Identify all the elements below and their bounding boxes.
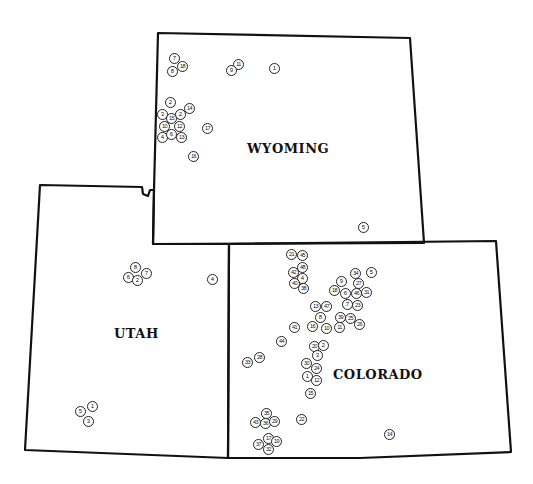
site-marker-colorado: 22 xyxy=(296,414,307,425)
site-marker-utah: 2 xyxy=(132,275,143,286)
site-marker-wyoming: 17 xyxy=(202,123,213,134)
site-marker-colorado: 31 xyxy=(361,287,372,298)
site-marker-colorado: 28 xyxy=(254,352,265,363)
wyoming-outline xyxy=(153,33,424,244)
utah-outline xyxy=(25,185,229,458)
site-marker-wyoming: 2 xyxy=(175,109,186,120)
site-marker-colorado: 24 xyxy=(311,363,322,374)
site-marker-colorado: 18 xyxy=(329,285,340,296)
site-marker-colorado: 14 xyxy=(384,429,395,440)
site-marker-wyoming: 16 xyxy=(188,151,199,162)
site-marker-colorado: 33 xyxy=(242,357,253,368)
site-marker-utah: 4 xyxy=(207,274,218,285)
site-marker-colorado: 41 xyxy=(289,322,300,333)
site-marker-colorado: 10 xyxy=(321,323,332,334)
site-marker-utah: 8 xyxy=(130,262,141,273)
site-marker-colorado: 13 xyxy=(310,301,321,312)
state-label-wyoming: WYOMING xyxy=(247,141,329,156)
state-label-colorado: COLORADO xyxy=(333,367,423,382)
site-marker-colorado: 44 xyxy=(276,336,287,347)
state-label-utah: UTAH xyxy=(114,326,159,341)
site-marker-wyoming: 1 xyxy=(269,63,280,74)
site-marker-colorado: 2 xyxy=(318,340,329,351)
site-marker-wyoming: 13 xyxy=(176,132,187,143)
site-marker-utah: 3 xyxy=(83,416,94,427)
site-marker-colorado: 38 xyxy=(298,283,309,294)
site-marker-wyoming: 8 xyxy=(167,66,178,77)
site-marker-colorado: 45 xyxy=(297,250,308,261)
site-marker-wyoming: 5 xyxy=(358,222,369,233)
site-marker-colorado: 15 xyxy=(305,388,316,399)
site-marker-wyoming: 2 xyxy=(165,97,176,108)
site-marker-colorado: 32 xyxy=(263,444,274,455)
site-marker-colorado: 23 xyxy=(352,300,363,311)
site-marker-colorado: 6 xyxy=(340,288,351,299)
site-marker-colorado: 26 xyxy=(354,319,365,330)
site-marker-colorado: 11 xyxy=(334,322,345,333)
site-marker-wyoming: 9 xyxy=(226,65,237,76)
site-marker-utah: 1 xyxy=(87,401,98,412)
site-marker-colorado: 21 xyxy=(286,249,297,260)
site-marker-colorado: 16 xyxy=(307,321,318,332)
site-marker-colorado: 12 xyxy=(311,375,322,386)
site-marker-colorado: 8 xyxy=(315,312,326,323)
site-marker-colorado: 3 xyxy=(312,350,323,361)
site-marker-colorado: 29 xyxy=(269,416,280,427)
site-marker-colorado: 5 xyxy=(366,267,377,278)
site-marker-wyoming: 18 xyxy=(177,61,188,72)
site-marker-utah: 7 xyxy=(141,268,152,279)
site-marker-colorado: 47 xyxy=(321,301,332,312)
site-marker-utah: 5 xyxy=(75,406,86,417)
